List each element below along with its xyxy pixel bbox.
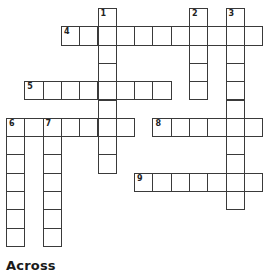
crossword-cell[interactable] bbox=[244, 173, 263, 192]
crossword-cell[interactable] bbox=[134, 26, 153, 45]
crossword-cell[interactable] bbox=[207, 118, 226, 137]
crossword-cell[interactable] bbox=[226, 45, 245, 64]
crossword-cell[interactable]: 1 bbox=[98, 8, 117, 27]
crossword-cell[interactable] bbox=[171, 26, 190, 45]
crossword-cell[interactable] bbox=[226, 63, 245, 82]
crossword-cell[interactable]: 3 bbox=[226, 8, 245, 27]
crossword-cell[interactable] bbox=[189, 63, 208, 82]
crossword-cell[interactable] bbox=[226, 191, 245, 210]
crossword-cell[interactable] bbox=[226, 173, 245, 192]
crossword-cell[interactable] bbox=[43, 173, 62, 192]
clue-number: 6 bbox=[9, 120, 15, 128]
crossword-cell[interactable] bbox=[116, 81, 135, 100]
crossword-cell[interactable] bbox=[6, 228, 25, 247]
clue-number: 2 bbox=[192, 10, 198, 18]
clue-number: 7 bbox=[46, 120, 52, 128]
crossword-cell[interactable] bbox=[43, 81, 62, 100]
crossword-cell[interactable] bbox=[134, 81, 153, 100]
crossword-cell[interactable]: 9 bbox=[134, 173, 153, 192]
crossword-cell[interactable] bbox=[189, 173, 208, 192]
clue-number: 5 bbox=[27, 83, 33, 91]
crossword-cell[interactable] bbox=[43, 136, 62, 155]
crossword-cell[interactable] bbox=[98, 81, 117, 100]
clue-number: 9 bbox=[137, 175, 143, 183]
clue-number: 3 bbox=[229, 10, 235, 18]
crossword-cell[interactable] bbox=[61, 118, 80, 137]
crossword-cell[interactable] bbox=[98, 26, 117, 45]
crossword-cell[interactable] bbox=[226, 118, 245, 137]
crossword-cell[interactable]: 2 bbox=[189, 8, 208, 27]
clue-number: 1 bbox=[101, 10, 107, 18]
crossword-cell[interactable] bbox=[207, 173, 226, 192]
crossword-cell[interactable] bbox=[98, 100, 117, 119]
crossword-cell[interactable] bbox=[6, 136, 25, 155]
crossword-cell[interactable] bbox=[226, 81, 245, 100]
crossword-cell[interactable] bbox=[79, 26, 98, 45]
crossword-cell[interactable] bbox=[6, 209, 25, 228]
crossword-cell[interactable] bbox=[98, 118, 117, 137]
crossword-cell[interactable] bbox=[152, 81, 171, 100]
crossword-cell[interactable] bbox=[152, 173, 171, 192]
clue-number: 8 bbox=[155, 120, 161, 128]
across-heading: Across bbox=[6, 258, 56, 271]
crossword-cell[interactable]: 7 bbox=[43, 118, 62, 137]
crossword-cell[interactable] bbox=[207, 26, 226, 45]
crossword-cell[interactable] bbox=[98, 136, 117, 155]
crossword-cell[interactable]: 4 bbox=[61, 26, 80, 45]
crossword-cell[interactable] bbox=[226, 154, 245, 173]
crossword-cell[interactable] bbox=[171, 173, 190, 192]
crossword-cell[interactable] bbox=[43, 154, 62, 173]
crossword-cell[interactable] bbox=[152, 26, 171, 45]
crossword-cell[interactable]: 6 bbox=[6, 118, 25, 137]
crossword-cell[interactable] bbox=[98, 45, 117, 64]
crossword-cell[interactable] bbox=[226, 100, 245, 119]
crossword-cell[interactable] bbox=[226, 136, 245, 155]
crossword-cell[interactable] bbox=[98, 154, 117, 173]
crossword-cell[interactable] bbox=[171, 118, 190, 137]
crossword-cell[interactable] bbox=[43, 209, 62, 228]
crossword-cell[interactable] bbox=[6, 173, 25, 192]
crossword-cell[interactable] bbox=[189, 81, 208, 100]
crossword-cell[interactable] bbox=[244, 26, 263, 45]
crossword-cell[interactable] bbox=[189, 26, 208, 45]
crossword-cell[interactable] bbox=[189, 45, 208, 64]
crossword-cell[interactable] bbox=[24, 118, 43, 137]
crossword-cell[interactable] bbox=[43, 228, 62, 247]
crossword-cell[interactable] bbox=[98, 63, 117, 82]
crossword-cell[interactable] bbox=[116, 26, 135, 45]
crossword-cell[interactable] bbox=[226, 26, 245, 45]
crossword-cell[interactable]: 5 bbox=[24, 81, 43, 100]
crossword-cell[interactable] bbox=[6, 154, 25, 173]
crossword-cell[interactable] bbox=[6, 191, 25, 210]
crossword-cell[interactable] bbox=[116, 118, 135, 137]
crossword-grid: 123456789 bbox=[0, 0, 265, 260]
crossword-cell[interactable] bbox=[189, 118, 208, 137]
crossword-cell[interactable] bbox=[79, 81, 98, 100]
crossword-cell[interactable] bbox=[61, 81, 80, 100]
crossword-cell[interactable] bbox=[244, 118, 263, 137]
crossword-cell[interactable] bbox=[43, 191, 62, 210]
crossword-cell[interactable] bbox=[79, 118, 98, 137]
crossword-cell[interactable]: 8 bbox=[152, 118, 171, 137]
clue-number: 4 bbox=[64, 28, 70, 36]
